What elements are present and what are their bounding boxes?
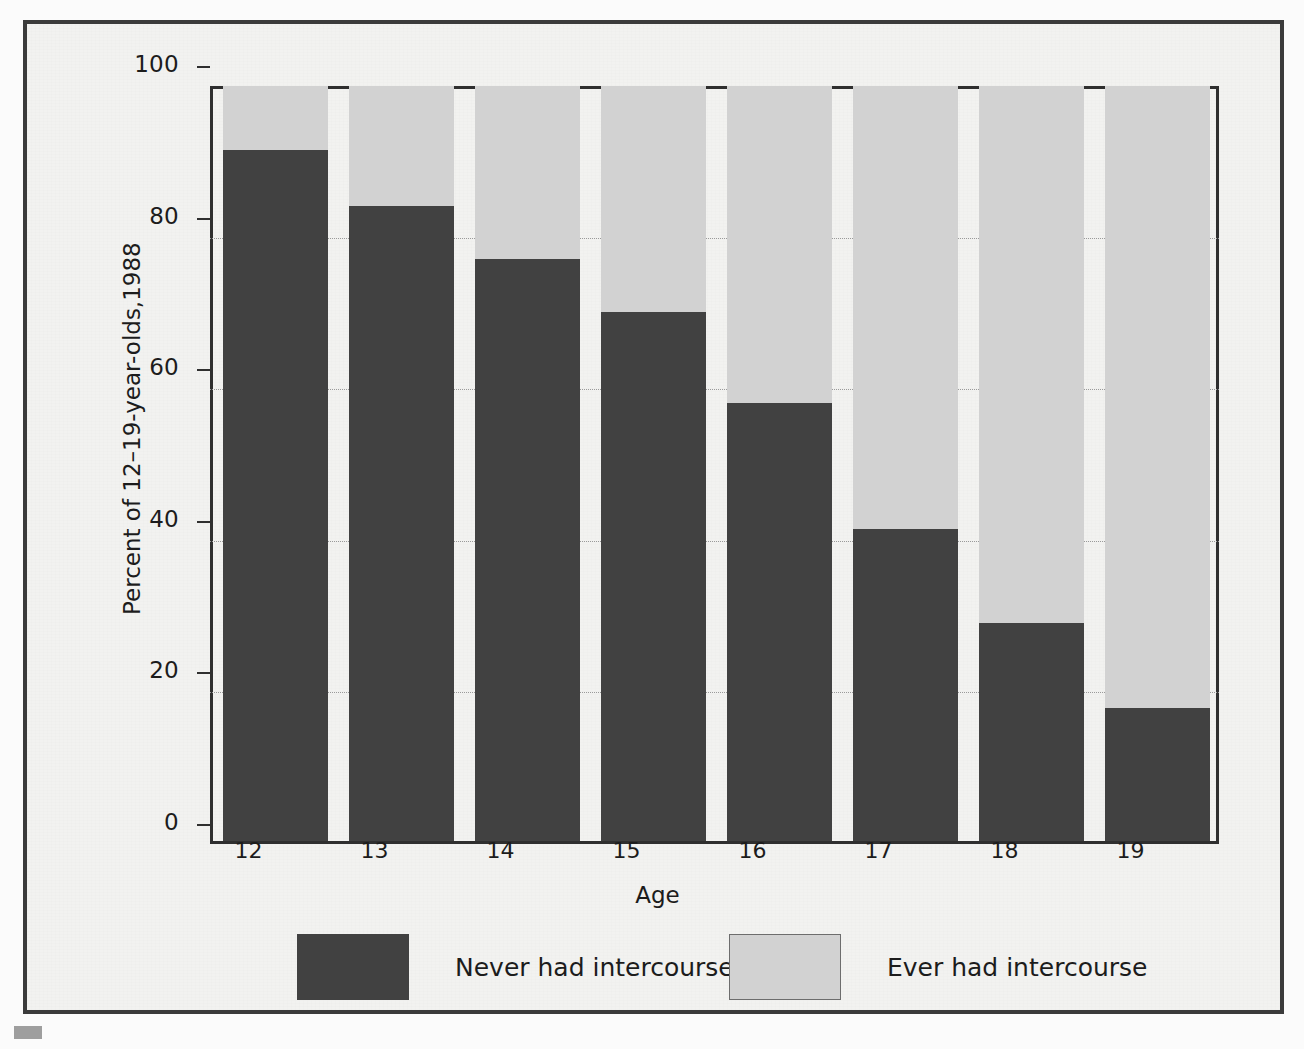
scan-artifact-mark xyxy=(14,1026,42,1039)
bar-segment-ever-14 xyxy=(475,86,580,259)
bar-segment-ever-12 xyxy=(223,86,328,150)
x-tick-label-18: 18 xyxy=(952,838,1057,863)
bar-group-age-19 xyxy=(1105,86,1210,844)
legend-label-1: Never had intercourse xyxy=(455,953,734,982)
x-tick-label-12: 12 xyxy=(196,838,301,863)
figure-frame: Percent of 12–19-year-olds,1988 02040608… xyxy=(23,20,1284,1014)
x-tick-label-19: 19 xyxy=(1078,838,1183,863)
bar-series-container xyxy=(210,86,1219,844)
x-tick-label-13: 13 xyxy=(322,838,427,863)
y-tick-label-80: 80 xyxy=(87,203,179,229)
bar-group-age-17 xyxy=(853,86,958,844)
bar-segment-ever-18 xyxy=(979,86,1084,623)
y-tick-mark-60 xyxy=(197,369,210,371)
bar-segment-ever-13 xyxy=(349,86,454,206)
bar-group-age-13 xyxy=(349,86,454,844)
bar-segment-ever-17 xyxy=(853,86,958,529)
legend-swatch-dark xyxy=(297,934,409,1000)
chart-legend: Never had intercourseEver had intercours… xyxy=(27,934,1288,1014)
x-axis-title: Age xyxy=(27,882,1288,908)
y-tick-label-40: 40 xyxy=(87,506,179,532)
legend-entry-2[interactable]: Ever had intercourse xyxy=(729,934,1147,1000)
bar-group-age-15 xyxy=(601,86,706,844)
plot-area xyxy=(210,86,1219,844)
bar-segment-never-18 xyxy=(979,623,1084,844)
y-tick-label-60: 60 xyxy=(87,354,179,380)
x-tick-label-15: 15 xyxy=(574,838,679,863)
bar-group-age-16 xyxy=(727,86,832,844)
y-tick-label-20: 20 xyxy=(87,657,179,683)
x-tick-label-17: 17 xyxy=(826,838,931,863)
bar-segment-never-12 xyxy=(223,150,328,844)
legend-swatch-light xyxy=(729,934,841,1000)
bar-segment-ever-19 xyxy=(1105,86,1210,708)
y-tick-label-0: 0 xyxy=(87,809,179,835)
bar-segment-ever-16 xyxy=(727,86,832,403)
legend-entry-1[interactable]: Never had intercourse xyxy=(297,934,734,1000)
bar-group-age-18 xyxy=(979,86,1084,844)
bar-segment-ever-15 xyxy=(601,86,706,312)
bar-segment-never-16 xyxy=(727,403,832,844)
y-tick-mark-100 xyxy=(197,66,210,68)
figure-page: Percent of 12–19-year-olds,1988 02040608… xyxy=(0,0,1304,1049)
y-tick-label-100: 100 xyxy=(87,51,179,77)
bar-segment-never-17 xyxy=(853,529,958,844)
bar-group-age-12 xyxy=(223,86,328,844)
y-axis-title: Percent of 12–19-year-olds,1988 xyxy=(119,242,145,615)
bar-segment-never-19 xyxy=(1105,708,1210,844)
legend-label-2: Ever had intercourse xyxy=(887,953,1147,982)
bar-segment-never-13 xyxy=(349,206,454,844)
bar-segment-never-14 xyxy=(475,259,580,844)
bar-group-age-14 xyxy=(475,86,580,844)
y-tick-mark-40 xyxy=(197,521,210,523)
bar-segment-never-15 xyxy=(601,312,706,844)
x-tick-label-16: 16 xyxy=(700,838,805,863)
x-tick-label-14: 14 xyxy=(448,838,553,863)
y-tick-mark-0 xyxy=(197,824,210,826)
y-tick-mark-20 xyxy=(197,672,210,674)
y-tick-mark-80 xyxy=(197,218,210,220)
